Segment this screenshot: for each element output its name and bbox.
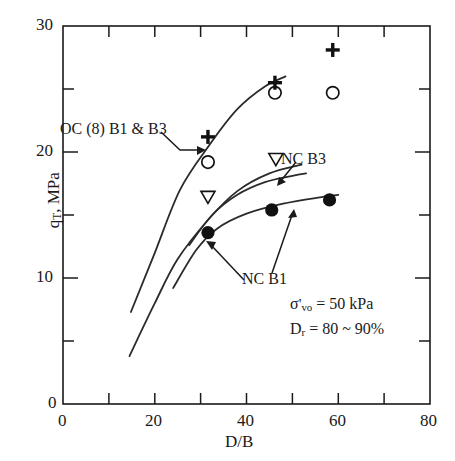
y-tick-label-30: 30	[36, 15, 53, 35]
y-axis-subscript: T	[51, 213, 64, 220]
y-tick-label-10: 10	[36, 267, 53, 287]
y-axis-q: q	[44, 220, 63, 229]
nc-b1-annotation-label: NC B1	[242, 270, 287, 288]
x-tick-label-80: 80	[420, 411, 437, 431]
y-axis-unit: , MPa	[44, 172, 63, 213]
dr-symbol: D	[290, 320, 302, 337]
chart-figure	[0, 0, 455, 461]
oc-annotation-label: OC (8) B1 & B3	[60, 120, 167, 138]
marker-circle-filled	[323, 193, 336, 206]
x-axis-title: D/B	[225, 432, 253, 452]
dr-note: Dr = 80 ~ 90%	[290, 320, 384, 338]
x-tick-label-40: 40	[237, 411, 254, 431]
sigma-subscript: vo	[301, 301, 312, 313]
y-tick-label-0: 0	[48, 393, 57, 413]
sigma-value: = 50 kPa	[312, 295, 373, 312]
sigma-symbol: σ	[290, 295, 299, 312]
marker-circle-filled	[265, 203, 278, 216]
sigma-vo-note: σ'vo = 50 kPa	[290, 295, 373, 313]
x-tick-label-20: 20	[145, 411, 162, 431]
nc-b3-annotation-label: NC B3	[281, 150, 326, 168]
plot-frame	[63, 26, 430, 404]
x-tick-label-60: 60	[329, 411, 346, 431]
dr-value: = 80 ~ 90%	[305, 320, 384, 337]
marker-circle-filled	[201, 226, 214, 239]
plot-axes	[63, 26, 430, 404]
y-axis-title: qT, MPa	[44, 140, 65, 260]
x-tick-label-0: 0	[58, 411, 67, 431]
